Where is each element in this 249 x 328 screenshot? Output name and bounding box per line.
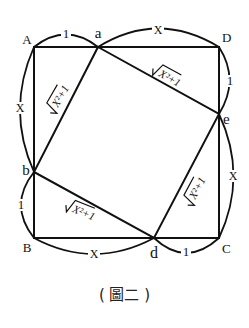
vertex-D: D [222,30,231,45]
vertex-B: B [23,240,32,255]
label-dB: X [90,247,99,261]
label-Cd: 1 [183,244,190,259]
vertex-b: b [22,162,30,178]
vertex-A: A [22,32,32,47]
pythagorean-square-diagram: 1 X 1 X 1 X 1 X A a D e C d B b X²+1 X²+… [0,0,249,328]
label-aD: X [154,23,163,37]
label-Aa: 1 [63,26,70,41]
label-bA: X [16,101,25,115]
vertex-d: d [150,244,158,261]
side-bd-label: X²+1 [64,198,98,223]
outer-square [34,47,219,238]
vertex-C: C [222,241,231,256]
label-eC: X [229,169,238,183]
inner-square [34,47,219,238]
vertex-e: e [223,111,230,127]
svg-text:X²+1: X²+1 [186,175,208,202]
svg-text:X²+1: X²+1 [156,67,183,89]
vertex-a: a [95,25,102,41]
label-De: 1 [227,73,234,88]
side-ab-label: X²+1 [43,82,71,116]
label-Bb: 1 [18,197,25,212]
figure-caption: ( 圖二 ) [0,283,249,304]
